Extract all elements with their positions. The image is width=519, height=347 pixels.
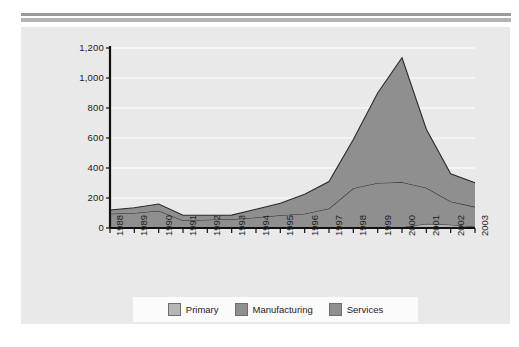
x-tick-label: 1998 bbox=[357, 215, 368, 236]
figure-page: 1,2001,0008006004002000 1988198919901991… bbox=[0, 0, 519, 347]
x-tick-label: 2000 bbox=[406, 215, 417, 236]
legend-item-primary: Primary bbox=[168, 303, 219, 316]
legend-label-manufacturing: Manufacturing bbox=[253, 304, 313, 315]
x-tick-label: 1988 bbox=[114, 215, 125, 236]
y-tick-label: 800 bbox=[58, 102, 104, 113]
legend-swatch-services bbox=[329, 303, 342, 316]
x-tick-label: 2003 bbox=[479, 215, 490, 236]
x-tick-label: 1997 bbox=[333, 215, 344, 236]
top-rule bbox=[21, 13, 511, 22]
x-tick-label: 1992 bbox=[211, 215, 222, 236]
legend-item-services: Services bbox=[329, 303, 383, 316]
y-tick-label: 200 bbox=[58, 192, 104, 203]
y-tick-label: 1,000 bbox=[58, 72, 104, 83]
x-tick-label: 1989 bbox=[138, 215, 149, 236]
x-tick-label: 1990 bbox=[163, 215, 174, 236]
legend-label-services: Services bbox=[347, 304, 383, 315]
chart-legend: Primary Manufacturing Services bbox=[133, 297, 418, 322]
x-tick-label: 2002 bbox=[455, 215, 466, 236]
x-tick-label: 1993 bbox=[236, 215, 247, 236]
x-tick-label: 1994 bbox=[260, 215, 271, 236]
rule-thin-line bbox=[21, 18, 511, 22]
legend-label-primary: Primary bbox=[186, 304, 219, 315]
chart-panel: 1,2001,0008006004002000 1988198919901991… bbox=[21, 27, 510, 324]
y-tick-label: 0 bbox=[58, 222, 104, 233]
x-tick-label: 2001 bbox=[430, 215, 441, 236]
y-tick-label: 1,200 bbox=[58, 42, 104, 53]
x-tick-label: 1999 bbox=[382, 215, 393, 236]
y-tick-label: 600 bbox=[58, 132, 104, 143]
x-tick-label: 1996 bbox=[309, 215, 320, 236]
y-tick-label: 400 bbox=[58, 162, 104, 173]
legend-swatch-manufacturing bbox=[235, 303, 248, 316]
legend-item-manufacturing: Manufacturing bbox=[235, 303, 313, 316]
legend-swatch-primary bbox=[168, 303, 181, 316]
x-tick-label: 1995 bbox=[284, 215, 295, 236]
x-tick-label: 1991 bbox=[187, 215, 198, 236]
